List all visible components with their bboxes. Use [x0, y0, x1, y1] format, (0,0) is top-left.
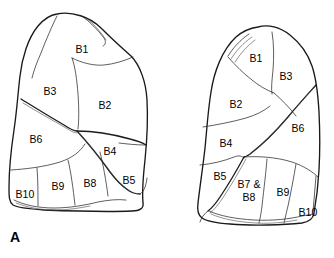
- left-label-b3: B3: [43, 86, 56, 97]
- left-label-b8: B8: [83, 178, 96, 189]
- right-label-b2: B2: [229, 99, 242, 110]
- right-label-b5: B5: [213, 171, 226, 182]
- left-label-b1: B1: [75, 44, 88, 55]
- right-label-b3: B3: [279, 71, 292, 82]
- right-label-b10: B10: [299, 207, 318, 218]
- figure-panel: B1 B3 B2 B6 B4 B5 B8 B9 B10 B1 B3 B2 B6 …: [0, 0, 334, 258]
- left-label-b4: B4: [103, 146, 116, 157]
- left-label-b10: B10: [16, 189, 35, 200]
- left-label-b2: B2: [98, 100, 111, 111]
- right-label-b7-b8-line1: B7 &: [237, 178, 260, 191]
- lung-segments-diagram: [0, 0, 334, 258]
- right-label-b7-b8-line2: B8: [237, 190, 260, 203]
- left-label-b9: B9: [51, 181, 64, 192]
- right-label-b7-b8: B7 & B8: [237, 178, 260, 203]
- right-label-b6: B6: [291, 123, 304, 134]
- right-label-b9: B9: [276, 187, 289, 198]
- panel-letter: A: [10, 229, 20, 245]
- left-label-b6: B6: [29, 134, 42, 145]
- left-label-b5: B5: [122, 175, 135, 186]
- right-label-b4: B4: [219, 138, 232, 149]
- right-label-b1: B1: [249, 53, 262, 64]
